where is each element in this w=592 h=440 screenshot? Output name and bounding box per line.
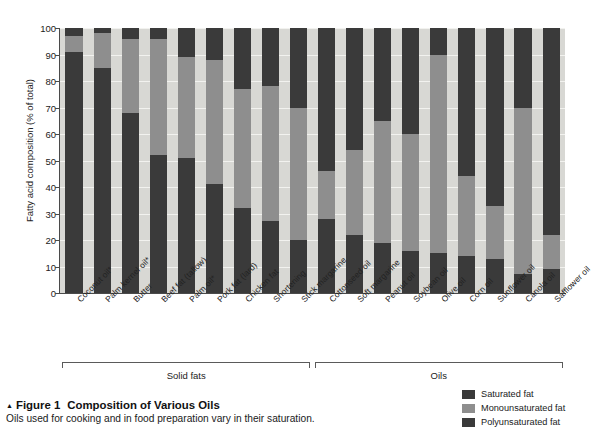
bar-segment-polyunsaturated-fat	[374, 28, 391, 121]
bar-segment-monounsaturated-fat	[374, 121, 391, 243]
bar-slot	[228, 28, 256, 293]
bar-segment-polyunsaturated-fat	[458, 28, 475, 176]
stacked-bar[interactable]	[402, 28, 419, 293]
stacked-bar[interactable]	[514, 28, 531, 293]
plot-area	[60, 28, 565, 293]
bar-slot	[481, 28, 509, 293]
bar-segment-monounsaturated-fat	[514, 108, 531, 275]
y-tick-label: 30	[4, 208, 56, 219]
bar-segment-monounsaturated-fat	[346, 150, 363, 235]
bar-segment-monounsaturated-fat	[178, 57, 195, 158]
bar-segment-monounsaturated-fat	[486, 206, 503, 259]
legend-swatch	[462, 404, 475, 413]
bar-slot	[172, 28, 200, 293]
group-bracket	[315, 362, 563, 368]
legend-item[interactable]: Saturated fat	[462, 387, 565, 401]
bar-segment-monounsaturated-fat	[262, 86, 279, 221]
bar-segment-monounsaturated-fat	[122, 39, 139, 113]
stacked-bar[interactable]	[234, 28, 251, 293]
bar-slot	[285, 28, 313, 293]
y-tick-label: 60	[4, 129, 56, 140]
bar-segment-polyunsaturated-fat	[150, 28, 167, 39]
bar-segment-monounsaturated-fat	[94, 33, 111, 67]
y-tick-label: 80	[4, 76, 56, 87]
bar-segment-monounsaturated-fat	[290, 108, 307, 241]
stacked-bar[interactable]	[374, 28, 391, 293]
bar-slot	[144, 28, 172, 293]
legend-swatch	[462, 390, 475, 399]
stacked-bar[interactable]	[346, 28, 363, 293]
caption-figure-number: Figure 1	[16, 399, 60, 411]
bar-segment-polyunsaturated-fat	[543, 28, 560, 235]
legend-label: Monounsaturated fat	[481, 403, 565, 413]
bar-slot	[509, 28, 537, 293]
bar-slot	[397, 28, 425, 293]
bar-series-container	[60, 28, 565, 293]
legend-item[interactable]: Monounsaturated fat	[462, 401, 565, 415]
bar-segment-polyunsaturated-fat	[430, 28, 447, 55]
y-tick-label: 70	[4, 102, 56, 113]
bar-slot	[537, 28, 565, 293]
bar-slot	[116, 28, 144, 293]
stacked-bar[interactable]	[150, 28, 167, 293]
caption-title-row: ▲ Figure 1 Composition of Various Oils	[6, 399, 436, 411]
stacked-bar[interactable]	[290, 28, 307, 293]
y-tick-label: 50	[4, 155, 56, 166]
stacked-bar[interactable]	[458, 28, 475, 293]
legend-swatch	[462, 418, 475, 427]
bar-segment-polyunsaturated-fat	[262, 28, 279, 86]
bar-segment-monounsaturated-fat	[206, 60, 223, 185]
legend-item[interactable]: Polyunsaturated fat	[462, 415, 565, 429]
stacked-bar[interactable]	[486, 28, 503, 293]
bar-segment-monounsaturated-fat	[318, 171, 335, 219]
stacked-bar[interactable]	[206, 28, 223, 293]
bar-segment-polyunsaturated-fat	[514, 28, 531, 108]
bar-segment-monounsaturated-fat	[543, 235, 560, 269]
bar-segment-polyunsaturated-fat	[318, 28, 335, 171]
stacked-bar[interactable]	[65, 28, 82, 293]
bar-segment-polyunsaturated-fat	[346, 28, 363, 150]
bar-segment-monounsaturated-fat	[430, 55, 447, 254]
bar-slot	[453, 28, 481, 293]
group-label: Solid fats	[62, 370, 310, 381]
bar-segment-polyunsaturated-fat	[206, 28, 223, 60]
chart-legend: Saturated fatMonounsaturated fatPolyunsa…	[462, 387, 565, 429]
group-bracket	[62, 362, 310, 368]
bar-slot	[88, 28, 116, 293]
x-axis-labels: Coconut oil*Palm kernel oil*ButterBeef f…	[60, 295, 565, 355]
bar-segment-monounsaturated-fat	[234, 89, 251, 208]
bar-slot	[341, 28, 369, 293]
caption-description: Oils used for cooking and in food prepar…	[6, 413, 436, 426]
bar-slot	[60, 28, 88, 293]
bar-segment-polyunsaturated-fat	[486, 28, 503, 206]
stacked-bar[interactable]	[178, 28, 195, 293]
bar-segment-polyunsaturated-fat	[402, 28, 419, 134]
group-label: Oils	[315, 370, 563, 381]
stacked-bar[interactable]	[430, 28, 447, 293]
stacked-bar[interactable]	[122, 28, 139, 293]
bar-slot	[425, 28, 453, 293]
bar-segment-polyunsaturated-fat	[178, 28, 195, 57]
bar-segment-saturated-fat	[94, 68, 111, 293]
bar-segment-polyunsaturated-fat	[290, 28, 307, 108]
bar-slot	[200, 28, 228, 293]
bar-slot	[256, 28, 284, 293]
bar-segment-polyunsaturated-fat	[65, 28, 82, 36]
bar-segment-saturated-fat	[150, 155, 167, 293]
y-tick-label: 100	[4, 23, 56, 34]
stacked-bar[interactable]	[318, 28, 335, 293]
bar-segment-monounsaturated-fat	[402, 134, 419, 251]
y-tick-label: 90	[4, 49, 56, 60]
bar-segment-monounsaturated-fat	[150, 39, 167, 156]
y-axis-ticks: 0102030405060708090100	[0, 0, 56, 440]
legend-label: Polyunsaturated fat	[481, 417, 560, 427]
bar-segment-polyunsaturated-fat	[234, 28, 251, 89]
stacked-bar[interactable]	[94, 28, 111, 293]
bar-segment-monounsaturated-fat	[65, 36, 82, 52]
stacked-bar[interactable]	[262, 28, 279, 293]
stacked-bar[interactable]	[543, 28, 560, 293]
caption-title: Composition of Various Oils	[67, 399, 220, 411]
y-tick-label: 40	[4, 182, 56, 193]
y-tick-label: 20	[4, 235, 56, 246]
